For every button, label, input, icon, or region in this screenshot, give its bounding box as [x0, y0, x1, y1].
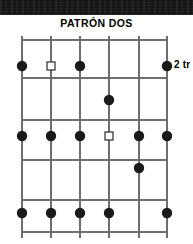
note-filled-s5-r4 — [134, 163, 144, 173]
fret-position-label: 2 tr — [174, 59, 190, 70]
note-filled-s3-r3 — [75, 131, 85, 141]
note-filled-s1-r5 — [17, 208, 27, 218]
note-filled-s3-r1 — [75, 61, 85, 71]
note-open-s2-r1 — [47, 62, 55, 70]
note-filled-s5-r3 — [134, 131, 144, 141]
fret-lines-group — [22, 40, 167, 232]
string-lines-group — [22, 36, 167, 238]
note-markers-group — [17, 61, 172, 218]
note-filled-s2-r5 — [46, 208, 56, 218]
note-filled-s4-r5 — [104, 208, 114, 218]
note-filled-s1-r1 — [17, 61, 27, 71]
note-filled-s2-r3 — [46, 131, 56, 141]
note-filled-s4-r2 — [104, 95, 114, 105]
note-filled-s6-r1 — [162, 61, 172, 71]
note-filled-s1-r3 — [17, 131, 27, 141]
fretboard-diagram — [0, 0, 193, 244]
note-filled-s6-r3 — [162, 131, 172, 141]
note-filled-s6-r5 — [162, 208, 172, 218]
note-filled-s3-r5 — [75, 208, 85, 218]
note-open-s4-r3 — [105, 132, 113, 140]
